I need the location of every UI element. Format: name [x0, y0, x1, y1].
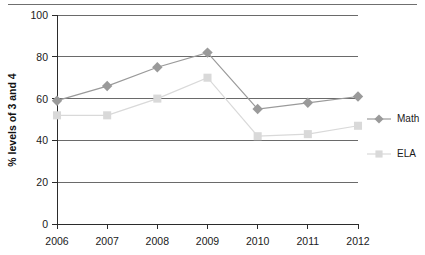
y-tick-label-40: 40 — [36, 134, 48, 146]
x-tick-marks — [57, 224, 358, 229]
y-tick-marks — [52, 15, 57, 224]
data-point-ela-2011 — [304, 130, 312, 138]
y-tick-label-20: 20 — [36, 176, 48, 188]
x-tick-label-2011: 2011 — [297, 235, 320, 247]
x-tick-labels: 2006 2007 2008 2009 2010 2011 2012 — [45, 235, 370, 247]
data-point-ela-2012 — [354, 122, 362, 130]
line-chart: 100 80 60 40 20 0 2006 2007 2008 2009 20… — [0, 0, 425, 255]
data-point-ela-2009 — [203, 74, 211, 82]
y-tick-label-60: 60 — [36, 93, 48, 105]
legend-label-ela: ELA — [397, 148, 416, 159]
x-tick-label-2008: 2008 — [146, 235, 170, 247]
chart-legend: MathELA — [367, 113, 419, 159]
data-point-ela-2006 — [53, 111, 61, 119]
x-tick-label-2010: 2010 — [246, 235, 270, 247]
x-tick-label-2009: 2009 — [196, 235, 220, 247]
data-point-ela-2007 — [103, 111, 111, 119]
y-tick-labels: 100 80 60 40 20 0 — [30, 9, 48, 230]
x-tick-label-2006: 2006 — [45, 235, 69, 247]
y-tick-label-0: 0 — [42, 218, 48, 230]
x-tick-label-2007: 2007 — [96, 235, 120, 247]
chart-figure: 100 80 60 40 20 0 2006 2007 2008 2009 20… — [0, 0, 425, 255]
plot-area-background — [57, 15, 358, 224]
y-axis-label: % levels of 3 and 4 — [6, 73, 18, 167]
y-tick-label-80: 80 — [36, 51, 48, 63]
data-point-ela-2010 — [254, 132, 262, 140]
legend-marker-math — [374, 114, 383, 123]
y-tick-label-100: 100 — [30, 9, 48, 21]
data-point-ela-2008 — [153, 95, 161, 103]
legend-label-math: Math — [397, 113, 419, 124]
legend-marker-ela — [375, 150, 382, 157]
x-tick-label-2012: 2012 — [346, 235, 370, 247]
